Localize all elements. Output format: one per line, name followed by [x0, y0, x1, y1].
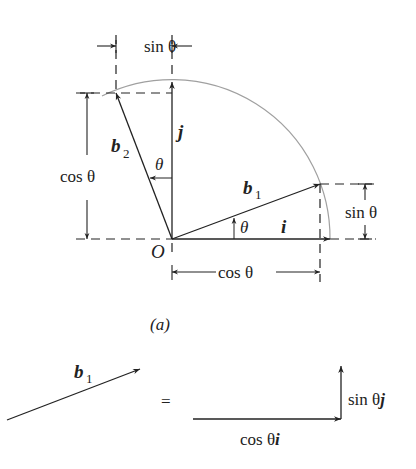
unit-j-label: j: [175, 121, 184, 142]
svg-text:b: b: [74, 361, 84, 382]
dashed-guides: [76, 35, 376, 282]
decomposition-equation: b 1 = cos θi sin θj: [7, 361, 385, 449]
left-cos-dimension: [80, 93, 94, 239]
svg-text:1: 1: [255, 187, 262, 202]
svg-text:1: 1: [86, 371, 93, 386]
top-sin-label: sin θ: [144, 37, 176, 56]
svg-text:b: b: [111, 135, 121, 156]
origin-label: O: [151, 241, 165, 262]
svg-text:2: 2: [123, 146, 130, 161]
svg-text:b: b: [243, 177, 253, 198]
vertical-component-label: sin θj: [348, 390, 385, 409]
vector-decomposition-diagram: sin θ cos θ sin θ cos θ j i b 1 b 2 θ θ …: [0, 0, 416, 469]
b2-label: b 2: [111, 135, 130, 161]
panel-a: sin θ cos θ sin θ cos θ j i b 1 b 2 θ θ …: [60, 35, 377, 334]
horizontal-component-label: cos θi: [240, 430, 280, 449]
equals-sign: =: [161, 392, 171, 411]
equation-b1-label: b 1: [74, 361, 93, 386]
left-cos-label: cos θ: [60, 167, 95, 186]
right-sin-label: sin θ: [345, 203, 377, 222]
unit-i-label: i: [281, 216, 287, 237]
bottom-cos-label: cos θ: [218, 263, 253, 282]
theta-label-b2: θ: [155, 155, 163, 174]
b1-label: b 1: [243, 177, 262, 202]
panel-label: (a): [150, 315, 170, 334]
unit-circle-arc: [102, 80, 330, 239]
theta-label-b1: θ: [240, 218, 248, 237]
vector-b2: [116, 93, 172, 239]
